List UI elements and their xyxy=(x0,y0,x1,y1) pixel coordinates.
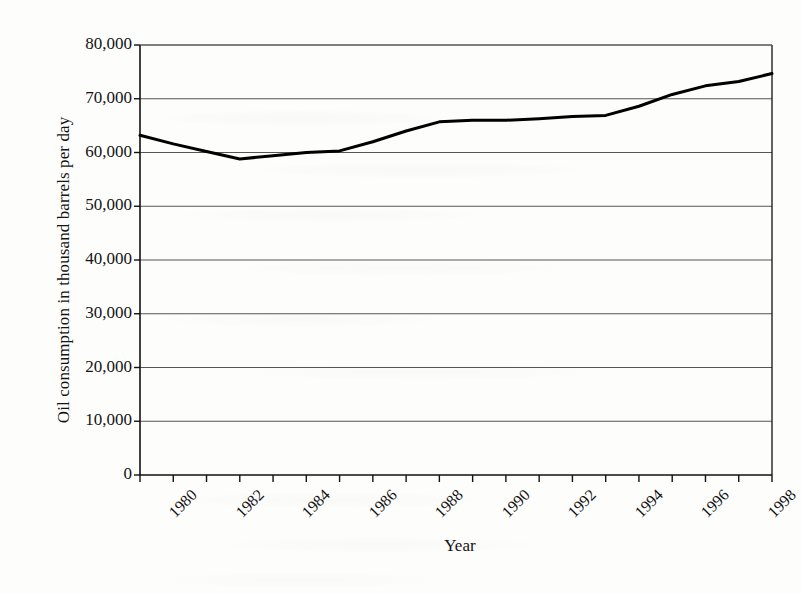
y-tick-label: 40,000 xyxy=(40,249,132,269)
y-tick-label: 0 xyxy=(40,464,132,484)
y-tick-label: 20,000 xyxy=(40,357,132,377)
chart-page: Oil consumption in thousand barrels per … xyxy=(0,0,801,593)
y-tick-label: 50,000 xyxy=(40,195,132,215)
y-tick-label: 80,000 xyxy=(40,34,132,54)
y-tick-label: 10,000 xyxy=(40,410,132,430)
y-tick-label: 30,000 xyxy=(40,303,132,323)
x-axis-title: Year xyxy=(360,536,560,556)
y-tick-label: 70,000 xyxy=(40,88,132,108)
y-tick-label: 60,000 xyxy=(40,142,132,162)
data-line-oil-consumption xyxy=(140,73,772,158)
